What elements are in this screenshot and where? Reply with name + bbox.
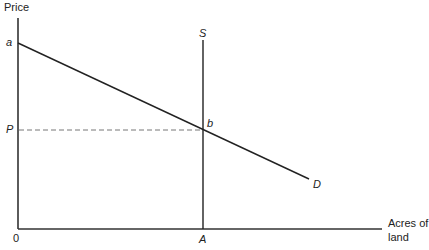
- x-axis-label-line2: land: [388, 232, 409, 243]
- demand-curve: [18, 43, 309, 179]
- x-axis-label-line1: Acres of: [388, 218, 428, 229]
- y-axis-label: Price: [4, 2, 29, 13]
- supply-label: S: [199, 28, 206, 39]
- price-label: P: [6, 124, 13, 135]
- demand-label: D: [313, 179, 321, 190]
- point-b-label: b: [207, 118, 213, 129]
- point-a-label: a: [6, 37, 12, 48]
- diagram-canvas: [0, 0, 429, 250]
- quantity-label: A: [199, 234, 206, 245]
- origin-label: 0: [13, 233, 19, 244]
